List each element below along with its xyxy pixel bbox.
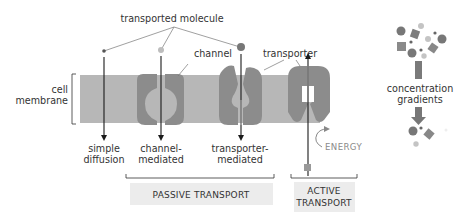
transporter-mediated-label-line1: transporter-: [211, 143, 268, 154]
transported-molecule-label: transported molecule: [120, 13, 223, 24]
cell-membrane: [80, 75, 320, 123]
molecule-channel: [158, 47, 164, 53]
cell-membrane-label-line1: cell: [51, 84, 68, 95]
passive-transport-label: PASSIVE TRANSPORT: [153, 190, 250, 200]
passive-transport-bracket: [126, 174, 274, 178]
membrane-transport-diagram: transported molecule cell membrane chann…: [0, 0, 465, 219]
channel-label: channel: [194, 48, 232, 59]
concentration-gradients-label-line2: gradients: [397, 94, 442, 105]
molecule-simple-diffusion: [102, 49, 106, 53]
channel-leader-line: [178, 64, 188, 76]
gradient-bar-top: [415, 61, 422, 79]
molecule-transporter: [237, 43, 245, 51]
transporter-label: transporter: [263, 48, 317, 59]
channel-mediated-label-line1: channel-: [140, 143, 181, 154]
molecule-active: [304, 164, 311, 171]
channel-mediated-label-line2: mediated: [138, 154, 184, 165]
concentration-gradients-label-line1: concentration: [387, 83, 453, 94]
high-concentration-molecules: [397, 23, 447, 59]
transporter-mediated-label-line2: mediated: [217, 154, 263, 165]
gradient-down-arrow: [411, 107, 426, 125]
cell-membrane-label-line2: membrane: [16, 95, 69, 106]
low-concentration-molecules: [409, 126, 448, 146]
cell-membrane-bracket: [72, 74, 76, 124]
active-transport-label-line1: ACTIVE: [307, 186, 341, 196]
active-transport-label-line2: TRANSPORT: [295, 198, 352, 208]
energy-label: ENERGY: [325, 142, 362, 152]
simple-diffusion-label-line2: diffusion: [83, 154, 124, 165]
active-transport-bracket: [291, 174, 357, 178]
simple-diffusion-label-line1: simple: [88, 143, 120, 154]
